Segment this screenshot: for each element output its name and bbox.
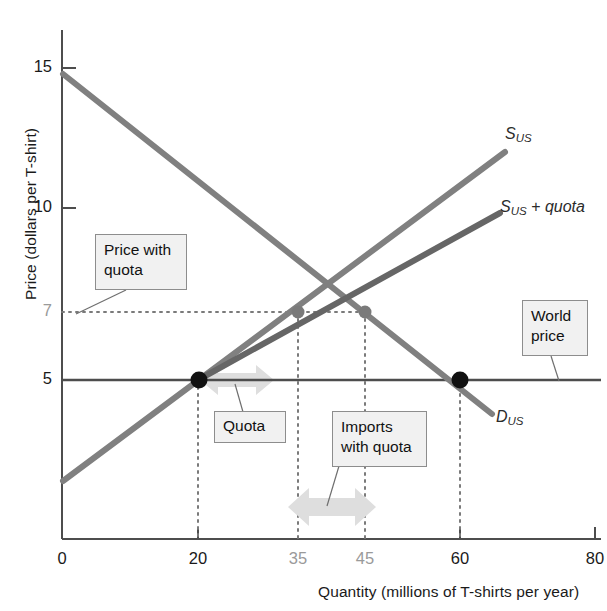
curve-label-sus: SUS — [505, 125, 532, 143]
x-tick-label-80: 80 — [583, 549, 607, 568]
x-tick-label-20: 20 — [186, 549, 210, 568]
x-axis-title: Quantity (millions of T-shirts per year) — [318, 583, 579, 601]
marker-us-demand-with-quota — [359, 306, 372, 319]
marker-us-supply-at-world-price — [191, 372, 208, 389]
x-tick-label-60: 60 — [448, 549, 472, 568]
y-tick-label-15: 15 — [26, 57, 52, 76]
curve-label-dus-sub: US — [508, 415, 524, 427]
y-tick-label-7: 7 — [26, 301, 52, 320]
y-tick-label-5: 5 — [26, 369, 52, 388]
x-tick-label-0: 0 — [50, 549, 74, 568]
price-with-quota-leader — [76, 290, 126, 314]
curve-label-sus-quota-main: S — [500, 198, 511, 215]
marker-us-demand-at-world-price — [452, 372, 469, 389]
callout-world-price: World price — [522, 300, 588, 356]
import-quota-chart: Price (dollars per T-shirt) Quantity (mi… — [0, 0, 607, 611]
curve-label-sus-sub: US — [516, 132, 532, 144]
supply-curve-sus-plus-quota — [198, 213, 500, 380]
curve-label-dus: DUS — [496, 408, 524, 426]
curve-label-sus-quota-suffix: + quota — [527, 198, 585, 215]
callout-imports-with-quota: Imports with quota — [332, 411, 427, 467]
plot-canvas — [0, 0, 607, 611]
y-tick-label-10: 10 — [26, 197, 52, 216]
x-tick-label-35: 35 — [286, 549, 310, 568]
imports-with-quota-span-arrow — [288, 488, 376, 526]
marker-us-supply-with-quota — [292, 306, 305, 319]
curve-label-sus-plus-quota: SUS + quota — [500, 198, 585, 216]
curve-label-sus-main: S — [505, 125, 516, 142]
curve-label-dus-main: D — [496, 408, 508, 425]
callout-quota: Quota — [214, 411, 286, 443]
callout-price-with-quota: Price with quota — [95, 234, 187, 290]
x-tick-label-45: 45 — [353, 549, 377, 568]
curve-label-sus-quota-sub: US — [511, 205, 527, 217]
quota-leader — [235, 384, 243, 412]
world-price-leader — [551, 356, 559, 381]
